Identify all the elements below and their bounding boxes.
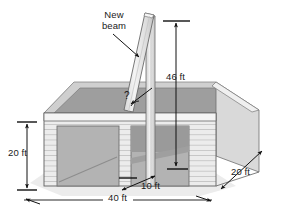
right-side-wall (216, 82, 259, 172)
dimension-label-building-depth: 20 ft (231, 166, 250, 177)
figure-canvas: Newbeam 46 ft 20 ft 40 ft 10 ft 20 ft ? (0, 0, 283, 223)
new-beam-leader (113, 34, 139, 57)
callout-label-new-beam-line2: beam (102, 20, 126, 31)
door-opening-left (57, 126, 119, 186)
unknown-angle-label: ? (124, 90, 130, 101)
callout-label-new-beam: Newbeam (92, 9, 136, 31)
dimension-label-post-height: 46 ft (166, 71, 185, 82)
front-wall-header (44, 113, 216, 121)
dimension-label-wall-height: 20 ft (8, 147, 27, 158)
dimension-label-building-width: 40 ft (108, 192, 127, 203)
callout-label-new-beam-line1: New (104, 9, 123, 20)
dimension-label-beam-offset: 10 ft (141, 180, 160, 191)
